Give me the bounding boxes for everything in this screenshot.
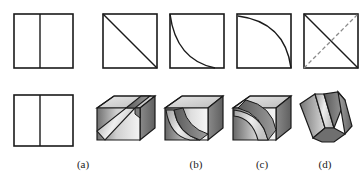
- pictorial-cube-with-convex-groove: [233, 96, 291, 140]
- figure-canvas: (a) (b) (c) (d): [0, 0, 363, 176]
- pictorial-flat-plate-front-view: [14, 95, 73, 146]
- caption-d: (d): [319, 158, 332, 171]
- square-outline: [14, 14, 73, 68]
- pictorial-v-shaped-solid: [300, 92, 352, 142]
- ortho-view-square-with-convex-curve: [237, 14, 291, 68]
- caption-a: (a): [77, 158, 90, 171]
- ortho-view-square-with-diagonal: [103, 14, 157, 68]
- caption-b: (b): [190, 158, 203, 171]
- ortho-view-square-with-concave-curve: [170, 14, 224, 68]
- caption-c: (c): [256, 158, 269, 171]
- ortho-view-square-with-crossed-diagonals: [304, 14, 358, 68]
- ortho-view-square-with-vertical-center-line: [14, 14, 73, 68]
- square-outline: [237, 14, 291, 68]
- pictorial-cube-with-slanted-slot: [97, 96, 155, 140]
- figure-container: (a) (b) (c) (d): [0, 0, 363, 176]
- square-outline: [14, 95, 73, 146]
- pictorial-cube-with-concave-groove: [165, 96, 223, 140]
